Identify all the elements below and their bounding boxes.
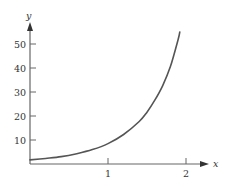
y-tick-label: 40 [14,63,26,74]
x-tick-label: 2 [183,168,189,179]
data-curve [30,32,180,160]
x-ticks: 12 [105,158,189,179]
y-tick-label: 10 [14,135,26,146]
y-tick-label: 20 [14,111,26,122]
y-ticks: 1020304050 [14,39,36,146]
y-axis-arrow-icon [27,22,33,31]
x-axis: x [30,158,219,169]
y-axis-label: y [25,10,32,21]
y-tick-label: 50 [14,39,26,50]
y-axis: y [25,10,33,164]
x-axis-label: x [213,158,219,169]
y-tick-label: 30 [14,87,26,98]
x-axis-arrow-icon [200,161,209,167]
x-tick-label: 1 [105,168,111,179]
chart: y x 1020304050 12 [0,0,225,187]
